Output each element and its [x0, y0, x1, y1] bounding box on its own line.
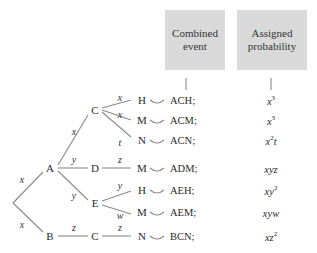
- combined-event: ACN;: [170, 135, 195, 146]
- edge-root-B: [13, 203, 43, 232]
- combined-event: BCN;: [170, 231, 195, 242]
- edge-E-H: [102, 191, 131, 201]
- edge-label-root-A: x: [20, 175, 24, 185]
- node-A: A: [46, 163, 54, 174]
- combined-event: ADM;: [170, 163, 197, 174]
- edge-label-root-B: x: [20, 220, 24, 230]
- node-C: C: [91, 105, 98, 116]
- assigned-probability: xy2: [265, 183, 278, 197]
- node-C-lower: C: [91, 231, 98, 242]
- leaf-M: M: [137, 115, 147, 126]
- node-E: E: [92, 198, 99, 209]
- edge-label-C-N: t: [119, 138, 122, 148]
- leaf-M: M: [137, 207, 147, 218]
- leaf-N: N: [138, 135, 146, 146]
- edge-root-A: [13, 172, 43, 203]
- edge-label-C-M: x: [118, 110, 122, 120]
- connector-tilde: [150, 120, 164, 123]
- connector-tilde: [150, 236, 164, 239]
- connector-tilde: [150, 168, 164, 171]
- assigned-probability: x3: [267, 113, 275, 127]
- edge-label-A-D: y: [72, 155, 76, 165]
- edge-label-E-M: w: [117, 211, 124, 221]
- combined-event: ACM;: [170, 115, 197, 126]
- combined-event: AEM;: [170, 207, 196, 218]
- assigned-probability: x2t: [265, 133, 276, 147]
- assigned-probability: xyz: [264, 161, 277, 175]
- edge-label-A-C: x: [72, 127, 76, 137]
- assigned-probability: x3: [267, 93, 275, 107]
- node-B: B: [46, 231, 53, 242]
- combined-event: ACH;: [170, 95, 195, 106]
- assigned-probability: xyw: [263, 205, 279, 219]
- assigned-probability: xz2: [265, 229, 277, 243]
- edge-C-H: [102, 100, 131, 108]
- connector-tilde: [150, 212, 164, 215]
- combined-event: AEH;: [170, 185, 195, 196]
- connector-tilde: [150, 100, 164, 103]
- connector-tilde: [150, 140, 164, 143]
- edge-C-M: [102, 110, 131, 120]
- node-D: D: [91, 163, 99, 174]
- leaf-H: H: [138, 95, 146, 106]
- edge-label-A-E: y: [72, 191, 76, 201]
- edge-label-C-H: x: [118, 93, 122, 103]
- connector-tilde: [150, 190, 164, 193]
- edge-label-D-M: z: [118, 155, 122, 165]
- leaf-H: H: [138, 185, 146, 196]
- edge-C-N: [102, 112, 131, 137]
- leaf-M: M: [137, 163, 147, 174]
- edge-label-B-C: z: [72, 223, 76, 233]
- edge-label-E-H: y: [118, 181, 122, 191]
- edge-label-C-N-lower: z: [118, 223, 122, 233]
- leaf-N: N: [138, 231, 146, 242]
